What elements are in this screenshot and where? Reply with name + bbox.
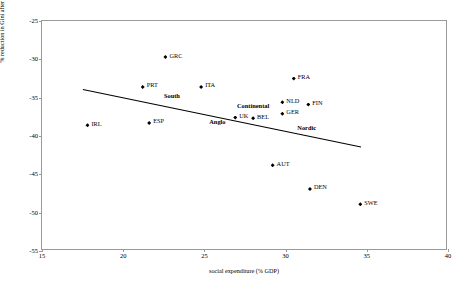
y-tick-mark xyxy=(39,213,42,214)
y-tick-mark xyxy=(39,98,42,99)
diamond-marker-icon xyxy=(271,163,275,167)
scatter-chart-figure: % reduction in Gini after taxes and tran… xyxy=(0,0,462,292)
diamond-marker-icon xyxy=(251,116,255,120)
diamond-marker-icon xyxy=(85,123,89,127)
diamond-marker-icon xyxy=(199,85,203,89)
x-tick-mark xyxy=(286,249,287,252)
y-tick-mark xyxy=(39,21,42,22)
data-point-label: ITA xyxy=(205,82,215,88)
data-point-label: DEN xyxy=(314,184,327,190)
diamond-marker-icon xyxy=(163,55,167,59)
x-tick-mark xyxy=(204,249,205,252)
data-point-label: BEL xyxy=(257,114,269,120)
x-axis-label: social expenditure (% GDP) xyxy=(41,268,447,274)
diamond-marker-icon xyxy=(233,116,237,120)
data-point-label: GER xyxy=(286,109,299,115)
data-point-label: FIN xyxy=(312,100,322,106)
x-tick-mark xyxy=(448,249,449,252)
trendline xyxy=(82,89,360,147)
data-point-label: UK xyxy=(239,113,248,119)
y-tick-mark xyxy=(39,136,42,137)
x-tick-mark xyxy=(367,249,368,252)
data-point-label: ESP xyxy=(153,118,164,124)
data-point-label: SWE xyxy=(364,200,377,206)
diamond-marker-icon xyxy=(141,85,145,89)
y-axis-label: % reduction in Gini after taxes and tran… xyxy=(0,0,5,88)
diamond-marker-icon xyxy=(280,112,284,116)
diamond-marker-icon xyxy=(292,77,296,81)
y-tick-mark xyxy=(39,59,42,60)
y-tick-mark xyxy=(39,174,42,175)
data-point-label: GRC xyxy=(169,53,182,59)
diamond-marker-icon xyxy=(147,121,151,125)
data-point-label: AUT xyxy=(277,161,290,167)
data-point-label: NLD xyxy=(286,98,299,104)
group-label-anglo: Anglo xyxy=(209,119,225,125)
diamond-marker-icon xyxy=(280,100,284,104)
data-point-label: IRL xyxy=(91,121,101,127)
diamond-marker-icon xyxy=(358,202,362,206)
data-point-label: PRT xyxy=(147,82,158,88)
diamond-marker-icon xyxy=(306,103,310,107)
x-tick-mark xyxy=(123,249,124,252)
group-label-nordic: Nordic xyxy=(297,124,316,130)
group-label-south: South xyxy=(164,93,180,99)
diamond-marker-icon xyxy=(308,187,312,191)
data-point-label: FRA xyxy=(298,74,310,80)
plot-area: -55-50-45-40-35-30-25 152025303540 IRLES… xyxy=(41,20,447,250)
x-tick-mark xyxy=(42,249,43,252)
group-label-continental: Continental xyxy=(237,103,269,109)
